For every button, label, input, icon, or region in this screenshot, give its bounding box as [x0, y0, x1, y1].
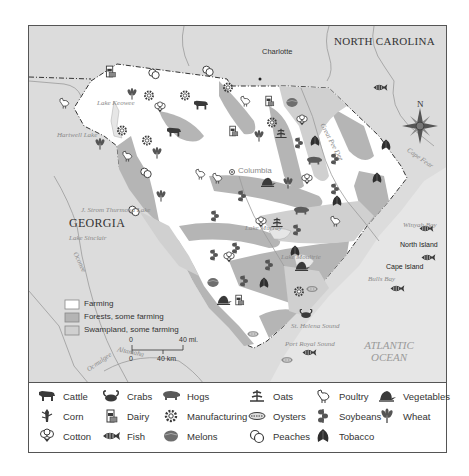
oysters-icon — [247, 408, 267, 424]
scale-mi-end: 40 mi. — [179, 336, 198, 343]
legend-melons: Melons — [161, 427, 218, 445]
cotton-icon — [37, 428, 57, 444]
legend-cattle: Cattle — [37, 387, 88, 405]
legend-corn: Corn — [37, 407, 84, 425]
compass-north-label: N — [417, 99, 424, 109]
label-north-island: North Island — [400, 241, 438, 248]
scale-km-end: 40 km — [157, 355, 176, 362]
label-winyah-bay: Winyah Bay — [403, 221, 433, 229]
poultry-icon — [313, 388, 333, 404]
label-charlotte: Charlotte — [262, 47, 292, 56]
key-farming: Farming — [84, 299, 113, 308]
soybeans-icon — [313, 408, 333, 424]
fish-icon — [101, 428, 121, 444]
legend-vegetables: Vegetables — [377, 387, 450, 405]
cattle-icon — [37, 388, 57, 404]
legend-oysters: Oysters — [247, 407, 306, 425]
legend-fish: Fish — [101, 427, 145, 445]
label-bulls-bay: Bulls Bay — [368, 275, 395, 283]
legend-soybeans: Soybeans — [313, 407, 381, 425]
legend-manufacturing: Manufacturing — [161, 407, 247, 425]
label-port-royal-sound: Port Royal Sound — [285, 340, 335, 348]
melons-icon — [161, 428, 181, 444]
legend-wheat: Wheat — [377, 407, 430, 425]
key-forests: Forests, some farming — [84, 312, 164, 321]
hogs-icon — [161, 388, 181, 404]
corn-icon — [37, 408, 57, 424]
wheat-icon — [377, 408, 397, 424]
label-thurmond-lake: J. Strom Thurmond Lake — [81, 206, 133, 214]
label-cape-island: Cape Island — [386, 263, 423, 270]
key-swampland: Swampland, some farming — [84, 325, 179, 334]
dairy-icon — [101, 408, 121, 424]
label-lake-keowee: Lake Keowee — [97, 99, 127, 107]
label-lake-murray: Lake Murray — [245, 224, 273, 232]
legend-oats: Oats — [247, 387, 293, 405]
label-north-carolina: NORTH CAROLINA — [334, 35, 435, 47]
tobacco-icon — [313, 428, 333, 444]
scale-km-start: 0 — [129, 355, 133, 362]
vegetables-icon — [377, 388, 397, 404]
label-lake-sinclair: Lake Sinclair — [69, 234, 99, 242]
legend-hogs: Hogs — [161, 387, 209, 405]
label-ocean: OCEAN — [359, 351, 419, 363]
label-hartwell-lake: Hartwell Lake — [57, 131, 93, 139]
label-columbia: Columbia — [238, 166, 272, 175]
manufacturing-icon — [161, 408, 181, 424]
label-lake-moultrie: Lake Moultrie — [281, 253, 311, 261]
legend-peaches: Peaches — [247, 427, 310, 445]
label-georgia: GEORGIA — [69, 216, 125, 231]
product-legend: Cattle Corn Cotton Crabs Dairy Fish Hogs… — [28, 383, 447, 453]
scale-mi-start: 0 — [129, 336, 133, 343]
crabs-icon — [101, 388, 121, 404]
legend-tobacco: Tobacco — [313, 427, 374, 445]
label-atlantic-ocean: ATLANTIC OCEAN — [359, 339, 419, 363]
peaches-icon — [247, 428, 267, 444]
legend-crabs: Crabs — [101, 387, 152, 405]
label-st-helena-sound: St. Helena Sound — [291, 322, 327, 330]
label-atlantic: ATLANTIC — [359, 339, 419, 351]
oats-icon — [247, 388, 267, 404]
legend-dairy: Dairy — [101, 407, 149, 425]
map-frame: NORTH CAROLINA GEORGIA Charlotte Columbi… — [28, 25, 447, 383]
legend-poultry: Poultry — [313, 387, 369, 405]
legend-cotton: Cotton — [37, 427, 91, 445]
